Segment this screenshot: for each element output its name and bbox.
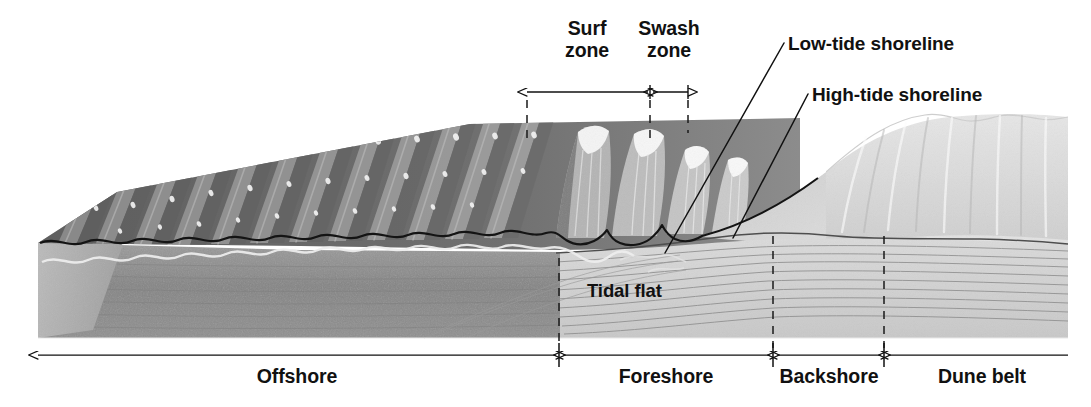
coastal-block-diagram: Surf zone Swash zone Low-tide shoreline …: [0, 0, 1091, 407]
axis-label-foreshore: Foreshore: [619, 366, 713, 388]
zone-header-surf-zone: Surf zone: [565, 18, 609, 62]
zone-header-swash-zone-line1: Swash: [638, 18, 699, 40]
block-diagram-body: [30, 110, 1068, 338]
zone-header-swash-zone-line2: zone: [638, 40, 699, 62]
axis-label-dune-belt: Dune belt: [938, 366, 1026, 388]
zone-header-surf-zone-line1: Surf: [565, 18, 609, 40]
axis-label-offshore: Offshore: [257, 366, 337, 388]
axis-label-backshore: Backshore: [780, 366, 879, 388]
zone-axis: [38, 343, 1068, 367]
dune-belt: [826, 114, 1068, 242]
zone-header-swash-zone: Swash zone: [638, 18, 699, 62]
diagram-canvas: [0, 0, 1091, 407]
callout-low-tide-shoreline: Low-tide shoreline: [788, 33, 954, 54]
dimension-arrows: [527, 85, 688, 99]
zone-header-surf-zone-line2: zone: [565, 40, 609, 62]
inner-label-tidal-flat: Tidal flat: [587, 281, 662, 302]
callout-high-tide-shoreline: High-tide shoreline: [812, 84, 982, 105]
